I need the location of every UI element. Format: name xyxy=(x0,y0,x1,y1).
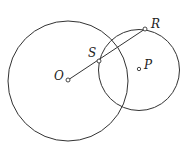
geometry-diagram: O S R P xyxy=(0,0,194,154)
label-R: R xyxy=(150,17,160,31)
point-R xyxy=(143,27,147,31)
label-S: S xyxy=(88,46,96,60)
label-O: O xyxy=(54,69,64,83)
point-P xyxy=(137,67,140,70)
label-P: P xyxy=(143,58,153,72)
segment-OR xyxy=(68,29,145,80)
point-O xyxy=(66,78,70,82)
point-S xyxy=(97,59,101,63)
